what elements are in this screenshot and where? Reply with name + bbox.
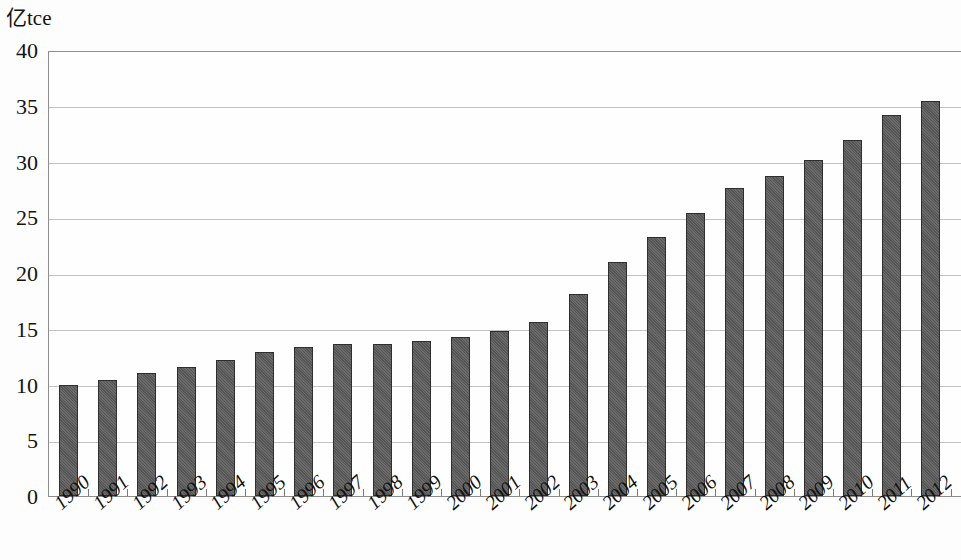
bar-chart: 亿tce 0510152025303540 199019911992199319… <box>0 0 961 560</box>
bar <box>569 294 588 496</box>
bar <box>725 188 744 496</box>
bar <box>686 213 705 496</box>
y-axis-tick-label: 30 <box>0 152 38 174</box>
bar <box>882 115 901 496</box>
x-axis-tick-labels: 1990199119921993199419951996199719981999… <box>48 498 961 560</box>
bar <box>804 160 823 496</box>
bar <box>921 101 940 496</box>
gridline <box>49 219 961 220</box>
y-axis-tick-label: 10 <box>0 375 38 397</box>
bar <box>608 262 627 496</box>
gridline <box>49 275 961 276</box>
bar <box>451 337 470 496</box>
plot-area <box>48 51 961 497</box>
y-axis-tick-label: 25 <box>0 207 38 229</box>
gridline <box>49 163 961 164</box>
gridline <box>49 107 961 108</box>
bar <box>529 322 548 496</box>
y-axis-tick-label: 35 <box>0 96 38 118</box>
y-axis-tick-label: 0 <box>0 486 38 508</box>
y-axis-unit-label: 亿tce <box>6 6 51 30</box>
bar <box>647 237 666 496</box>
y-axis-tick-label: 20 <box>0 263 38 285</box>
bar <box>765 176 784 496</box>
bar <box>490 331 509 496</box>
y-axis-tick-label: 5 <box>0 430 38 452</box>
y-axis-tick-label: 15 <box>0 319 38 341</box>
bar <box>843 140 862 496</box>
y-axis-tick-label: 40 <box>0 40 38 62</box>
